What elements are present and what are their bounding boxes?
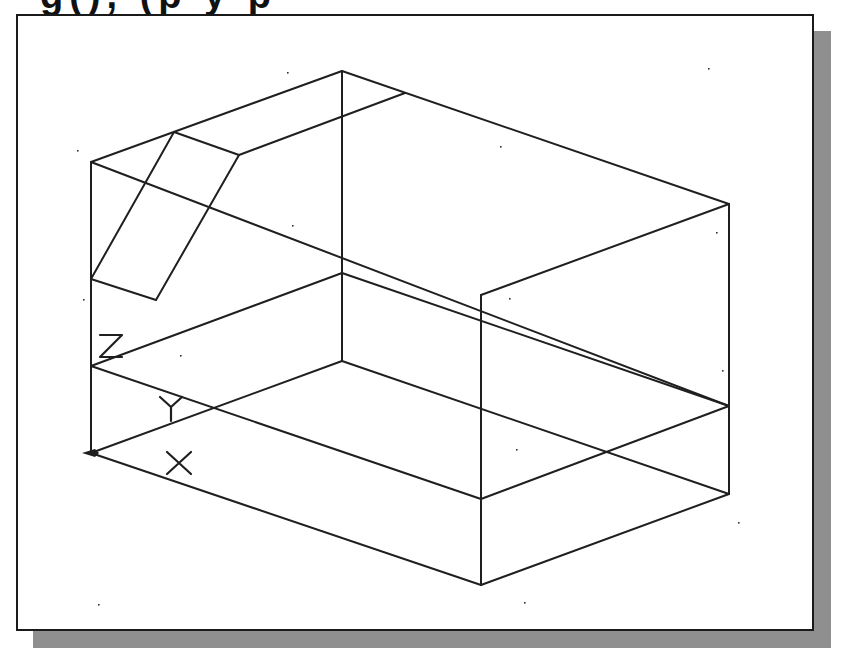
grid-dot [516, 449, 518, 451]
top-back-right-edge [342, 71, 729, 204]
x-axis-label: X [167, 452, 191, 474]
top-front-left-diagonal [91, 162, 729, 406]
slot-left-edge [91, 132, 174, 279]
z-axis-label: Z [100, 335, 122, 357]
grid-dot [292, 225, 294, 227]
mid-front-right-edge [481, 406, 729, 499]
mid-back-left-edge [91, 273, 342, 366]
grid-dots [77, 68, 740, 606]
grid-dot [83, 299, 85, 301]
slot-bottom-edge [91, 279, 156, 300]
axis-labels: ZYX [100, 335, 191, 474]
wireframe-drawing: ZYX [0, 0, 842, 649]
base-front-left-edge [91, 453, 481, 585]
grid-dot [708, 68, 710, 70]
y-axis-label: Y [160, 397, 182, 421]
slot-right-edge [156, 155, 239, 300]
mid-back-right-edge [342, 273, 729, 406]
grid-dot [722, 370, 724, 372]
grid-dot [287, 72, 289, 74]
grid-dot [509, 298, 511, 300]
slot-back-edge [239, 93, 405, 155]
slot-top-edge [174, 132, 239, 155]
base-front-right-edge [481, 494, 729, 585]
grid-dot [524, 602, 526, 604]
grid-dot [98, 604, 100, 606]
grid-dot [716, 232, 718, 234]
top-back-left-edge [91, 71, 342, 162]
grid-dot [500, 146, 502, 148]
top-front-right-edge [481, 204, 729, 295]
model-edges [91, 71, 729, 585]
grid-dot [738, 522, 740, 524]
grid-dot [180, 355, 182, 357]
grid-dot [77, 150, 79, 152]
